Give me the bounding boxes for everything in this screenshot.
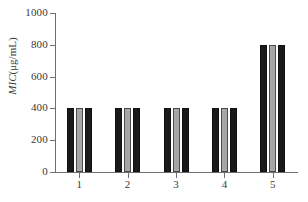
bar [67, 108, 74, 172]
bar-group [115, 13, 140, 172]
bar [230, 108, 237, 172]
x-axis-tick-label: 2 [113, 179, 143, 190]
y-axis-tick-label: 200 [8, 134, 48, 145]
bar [221, 108, 228, 172]
x-axis-tick-label: 3 [161, 179, 191, 190]
y-axis-tick-label: 800 [8, 39, 48, 50]
y-axis-tick-label: 400 [8, 102, 48, 113]
bar-group [67, 13, 92, 172]
x-axis-tick-label: 1 [64, 179, 94, 190]
x-axis-tick-label: 4 [209, 179, 239, 190]
bar [164, 108, 171, 172]
bar [85, 108, 92, 172]
bar-group [164, 13, 189, 172]
bar-chart: MIC(μg/mL) 02004006008001000 12345 [0, 0, 308, 202]
y-axis-tick-label: 600 [8, 71, 48, 82]
bar [269, 45, 276, 172]
y-axis-tick-label: 0 [8, 166, 48, 177]
bar [212, 108, 219, 172]
bar [182, 108, 189, 172]
bar [133, 108, 140, 172]
bar-group [212, 13, 237, 172]
bar [76, 108, 83, 172]
bar [260, 45, 267, 172]
bar-group [260, 13, 285, 172]
y-axis-tick [50, 172, 55, 173]
bar [173, 108, 180, 172]
plot-area [55, 13, 297, 172]
bar [115, 108, 122, 172]
bar [124, 108, 131, 172]
y-axis-title: MIC(μg/mL) [6, 16, 18, 116]
y-axis-tick-label: 1000 [8, 7, 48, 18]
bar [278, 45, 285, 172]
x-axis-tick-label: 5 [258, 179, 288, 190]
